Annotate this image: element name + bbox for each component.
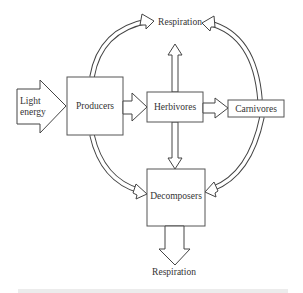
- light-energy-label-line2: energy: [20, 107, 46, 117]
- decomposers-node: Decomposers: [147, 169, 205, 226]
- carnivores-node: Carnivores: [228, 100, 284, 117]
- light-energy-label-line1: Light: [20, 96, 41, 106]
- light-energy-arrow: Light energy: [17, 80, 66, 133]
- decomposers-to-respiration-arrow: [159, 226, 190, 265]
- producers-label: Producers: [76, 101, 114, 111]
- energy-flow-diagram: Light energy Producers Herbivores Carniv…: [0, 0, 303, 293]
- respiration-bottom-label: Respiration: [152, 267, 196, 277]
- producers-to-respiration-arrow: [92, 14, 154, 77]
- carnivores-to-respiration-arrow: [202, 16, 260, 100]
- herbivores-node: Herbivores: [147, 92, 203, 122]
- respiration-top-label: Respiration: [158, 17, 202, 27]
- producers-node: Producers: [67, 77, 123, 135]
- carnivores-label: Carnivores: [235, 104, 277, 114]
- producers-to-decomposers-arrow: [92, 135, 147, 199]
- herbivores-label: Herbivores: [154, 102, 197, 112]
- decomposers-label: Decomposers: [150, 191, 202, 201]
- caption-fragment: [18, 289, 288, 293]
- producers-to-herbivores-arrow: [123, 93, 147, 121]
- carnivores-to-decomposers-arrow: [205, 117, 262, 197]
- herbivores-to-carnivores-arrow: [203, 98, 228, 118]
